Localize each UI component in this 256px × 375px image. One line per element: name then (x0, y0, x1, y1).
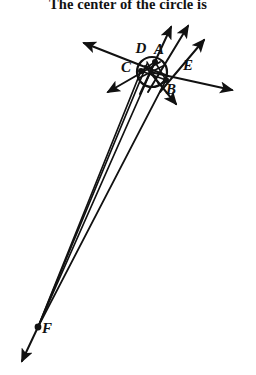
converging-lines-group (38, 62, 166, 327)
rays-group (84, 26, 232, 104)
point-labels-group: ABCDEF (41, 40, 193, 336)
point-dot-A (152, 59, 158, 65)
point-dot-F (35, 324, 42, 331)
geometry-figure: ABCDEF (0, 0, 256, 375)
point-label-B: B (165, 81, 176, 97)
figure-page: The center of the circle is ABCDEF (0, 0, 256, 375)
line-A-to-F (38, 62, 155, 327)
point-label-C: C (121, 59, 132, 75)
ray-f-tail (22, 327, 38, 361)
point-dot-C (138, 68, 144, 74)
line-B-to-F (38, 80, 166, 327)
point-label-A: A (153, 41, 164, 57)
point-label-F: F (41, 320, 52, 336)
point-label-D: D (135, 40, 147, 56)
f-tail-ray-group (22, 327, 38, 361)
line-C-to-F (38, 71, 141, 327)
point-label-E: E (182, 57, 193, 73)
